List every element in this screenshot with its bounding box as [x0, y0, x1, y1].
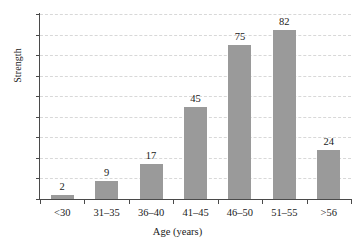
plot-area: 0102030405060708090 291745758224 <3031–3…: [40, 14, 351, 199]
y-tick-mark: [36, 117, 40, 118]
bar: [51, 195, 74, 199]
gridline: [40, 76, 351, 77]
gridline: [40, 55, 351, 56]
y-tick-mark: [36, 137, 40, 138]
x-axis-title: Age (years): [0, 226, 355, 237]
y-axis-title: Strength: [12, 21, 23, 111]
bar: [184, 107, 207, 200]
bar-value-label: 17: [131, 151, 171, 162]
bar: [95, 181, 118, 200]
x-tick-mark: [84, 199, 85, 204]
y-tick-mark: [36, 35, 40, 36]
x-tick-mark: [307, 199, 308, 204]
x-axis-line: [39, 199, 351, 200]
bar: [228, 45, 251, 199]
x-tick-mark: [129, 199, 130, 204]
x-category-label: >56: [299, 208, 355, 219]
y-axis-line: [39, 13, 40, 200]
x-tick-mark: [262, 199, 263, 204]
bar-value-label: 82: [264, 17, 304, 28]
y-tick-mark: [36, 96, 40, 97]
bar-value-label: 2: [42, 182, 82, 193]
bar: [140, 164, 163, 199]
x-tick-mark: [40, 199, 41, 204]
x-tick-mark: [218, 199, 219, 204]
bar: [273, 30, 296, 199]
y-tick-mark: [36, 76, 40, 77]
gridline: [40, 14, 351, 15]
bar-value-label: 75: [220, 32, 260, 43]
y-tick-mark: [36, 178, 40, 179]
gridline: [40, 35, 351, 36]
x-tick-mark: [173, 199, 174, 204]
bar-value-label: 24: [309, 137, 349, 148]
bar-value-label: 45: [176, 94, 216, 105]
bar: [317, 150, 340, 199]
y-tick-mark: [36, 14, 40, 15]
x-tick-mark: [351, 199, 352, 204]
y-tick-mark: [36, 158, 40, 159]
bar-chart: Strength 0102030405060708090 29174575822…: [0, 0, 355, 244]
bar-value-label: 9: [87, 168, 127, 179]
y-tick-mark: [36, 55, 40, 56]
